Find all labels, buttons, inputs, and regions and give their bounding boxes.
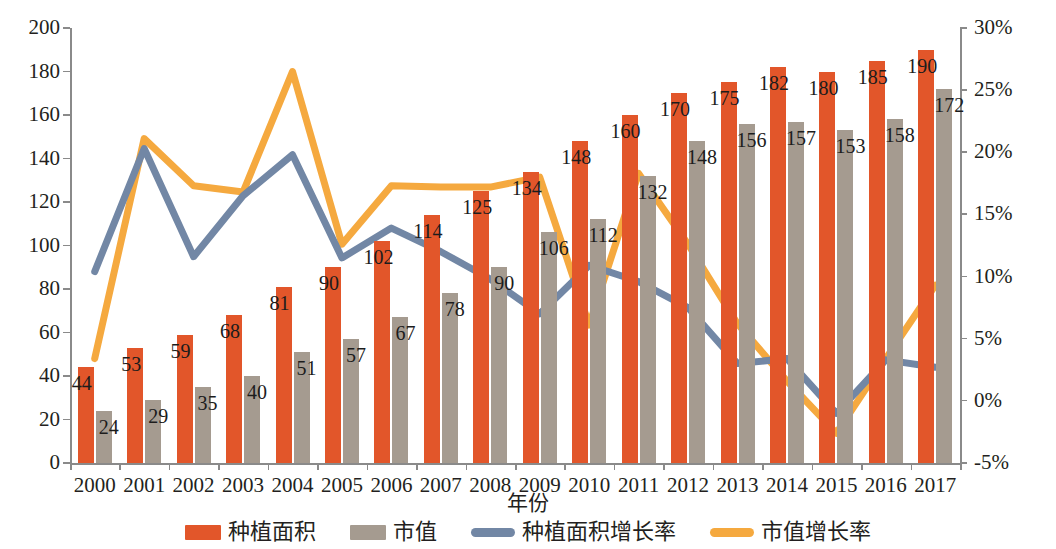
data-label-planting-area: 81: [252, 293, 308, 313]
legend-label: 市值: [393, 521, 437, 543]
x-axis-tick: [663, 463, 665, 470]
legend-bar-swatch-icon: [350, 525, 386, 540]
legend-bar-swatch-icon: [185, 525, 221, 540]
right-axis-tick-label: 5%: [974, 328, 1044, 349]
left-axis-tick: [63, 27, 70, 29]
data-label-planting-area: 160: [598, 121, 654, 141]
left-axis-tick-label: 180: [2, 61, 60, 82]
data-label-planting-area: 170: [647, 99, 703, 119]
left-axis-tick-label: 100: [2, 235, 60, 256]
bar-market-value: [491, 267, 507, 463]
data-label-planting-area: 68: [202, 321, 258, 341]
left-axis-tick-label: 200: [2, 17, 60, 38]
legend-label: 市值增长率: [761, 521, 871, 543]
data-label-planting-area: 190: [894, 56, 950, 76]
left-axis-tick: [63, 158, 70, 160]
x-axis-tick: [861, 463, 863, 470]
data-label-planting-area: 59: [153, 341, 209, 361]
data-label-market-value: 156: [724, 130, 780, 150]
legend-line-swatch-icon: [710, 528, 754, 537]
data-label-planting-area: 182: [746, 73, 802, 93]
bar-planting-area: [473, 191, 489, 463]
legend-item[interactable]: 种植面积增长率: [471, 521, 676, 543]
data-label-market-value: 78: [427, 299, 483, 319]
left-axis-tick: [63, 288, 70, 290]
bar-market-value: [640, 176, 656, 463]
bar-planting-area: [770, 67, 786, 463]
legend-label: 种植面积: [228, 521, 316, 543]
left-axis-tick: [63, 332, 70, 334]
x-axis-tick: [268, 463, 270, 470]
right-axis-tick-label: 30%: [974, 17, 1044, 38]
left-axis-tick-label: 120: [2, 191, 60, 212]
bar-market-value: [887, 119, 903, 463]
chart-container: 020406080100120140160180200 -5%0%5%10%15…: [0, 0, 1056, 549]
x-axis-tick: [367, 463, 369, 470]
x-axis-tick: [812, 463, 814, 470]
left-axis-tick-label: 140: [2, 148, 60, 169]
left-axis-tick: [63, 71, 70, 73]
data-label-planting-area: 44: [54, 373, 110, 393]
x-axis-tick: [762, 463, 764, 470]
data-label-planting-area: 134: [499, 178, 555, 198]
data-label-market-value: 158: [872, 125, 928, 145]
right-axis-tick-label: 0%: [974, 390, 1044, 411]
right-axis-tick-label: 20%: [974, 141, 1044, 162]
bar-market-value: [541, 232, 557, 463]
data-label-planting-area: 102: [350, 247, 406, 267]
x-axis-tick: [515, 463, 517, 470]
x-axis-tick: [70, 463, 72, 470]
data-label-planting-area: 114: [400, 221, 456, 241]
data-label-market-value: 51: [279, 358, 335, 378]
data-label-market-value: 57: [328, 345, 384, 365]
x-axis-tick: [416, 463, 418, 470]
bar-market-value: [739, 124, 755, 463]
data-label-planting-area: 125: [449, 197, 505, 217]
data-label-market-value: 24: [81, 417, 137, 437]
data-label-market-value: 172: [921, 95, 977, 115]
x-axis-tick: [960, 463, 962, 470]
data-label-market-value: 112: [575, 225, 631, 245]
bar-planting-area: [572, 141, 588, 463]
chart-legend: 种植面积市值种植面积增长率市值增长率: [0, 521, 1056, 543]
left-axis-tick-label: 20: [2, 409, 60, 430]
x-axis-title: 年份: [428, 492, 628, 514]
bar-planting-area: [869, 61, 885, 463]
legend-item[interactable]: 种植面积: [185, 521, 316, 543]
data-label-market-value: 132: [625, 182, 681, 202]
x-axis-tick: [169, 463, 171, 470]
bar-market-value: [590, 219, 606, 463]
data-label-planting-area: 148: [548, 147, 604, 167]
data-label-market-value: 40: [229, 382, 285, 402]
legend-label: 种植面积增长率: [522, 521, 676, 543]
data-label-market-value: 90: [476, 273, 532, 293]
x-axis-tick-label: 2017: [900, 475, 970, 496]
data-label-market-value: 35: [180, 393, 236, 413]
bar-market-value: [689, 141, 705, 463]
data-label-market-value: 29: [130, 406, 186, 426]
right-axis-tick-label: 10%: [974, 266, 1044, 287]
data-label-planting-area: 180: [795, 78, 851, 98]
bar-planting-area: [622, 115, 638, 463]
bar-market-value: [788, 122, 804, 463]
legend-item[interactable]: 市值增长率: [710, 521, 871, 543]
x-axis-tick: [911, 463, 913, 470]
left-axis-tick-label: 40: [2, 365, 60, 386]
left-axis-tick: [63, 419, 70, 421]
data-label-planting-area: 175: [697, 88, 753, 108]
left-axis-tick: [63, 201, 70, 203]
legend-item[interactable]: 市值: [350, 521, 437, 543]
x-axis-tick: [317, 463, 319, 470]
left-axis-tick: [63, 462, 70, 464]
x-axis-tick: [713, 463, 715, 470]
right-axis-tick-label: 15%: [974, 203, 1044, 224]
data-label-market-value: 67: [377, 323, 433, 343]
legend-line-swatch-icon: [471, 528, 515, 537]
left-axis-tick: [63, 114, 70, 116]
bar-market-value: [837, 130, 853, 463]
x-axis-tick: [119, 463, 121, 470]
right-axis-tick-label: -5%: [974, 452, 1044, 473]
data-label-market-value: 106: [526, 238, 582, 258]
left-axis-spine: [70, 28, 72, 463]
left-axis-tick: [63, 245, 70, 247]
